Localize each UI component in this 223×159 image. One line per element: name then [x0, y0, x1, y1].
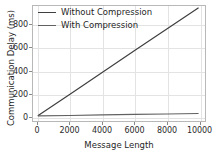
- x-tick-mark: [200, 122, 201, 125]
- x-tick-label: 4000: [92, 126, 112, 135]
- legend-swatch-with-compression: [38, 25, 56, 26]
- legend-swatch-without-compression: [38, 12, 56, 13]
- legend-label-without-compression: Without Compression: [61, 7, 152, 17]
- y-tick-mark: [29, 24, 32, 25]
- x-axis-label: Message Length: [32, 140, 206, 150]
- y-tick-mark: [29, 47, 32, 48]
- y-axis-label: Communication Delay (ms): [6, 8, 16, 128]
- x-tick-label: 2000: [59, 126, 79, 135]
- chart-figure: 0200040006000800010000 0200400600800 Mes…: [0, 0, 223, 159]
- y-tick-mark: [29, 94, 32, 95]
- chart-legend: Without Compression With Compression: [38, 7, 152, 30]
- x-tick-mark: [167, 122, 168, 125]
- legend-item-with-compression: With Compression: [38, 20, 152, 30]
- x-tick-label: 6000: [124, 126, 144, 135]
- y-tick-mark: [29, 117, 32, 118]
- x-tick-mark: [69, 122, 70, 125]
- series-line-with-compression: [38, 114, 199, 116]
- legend-item-without-compression: Without Compression: [38, 7, 152, 17]
- x-tick-label: 10000: [187, 126, 212, 135]
- legend-label-with-compression: With Compression: [61, 20, 138, 30]
- x-tick-mark: [134, 122, 135, 125]
- x-tick-label: 8000: [157, 126, 177, 135]
- x-tick-mark: [37, 122, 38, 125]
- y-tick-mark: [29, 71, 32, 72]
- y-tick-label: 0: [23, 113, 28, 122]
- x-tick-mark: [102, 122, 103, 125]
- x-tick-label: 0: [34, 126, 39, 135]
